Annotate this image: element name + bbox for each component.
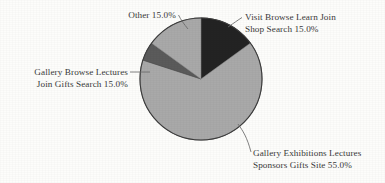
pie-label-gallery-browse-lectures-join-gifts-search: Gallery Browse Lectures Join Gifts Searc… (4, 66, 128, 90)
pie-chart-figure: Visit Browse Learn Join Shop Search 15.0… (0, 0, 385, 183)
pie-label-gallery-exhibitions-lectures-sponsors-gifts-site: Gallery Exhibitions Lectures Sponsors Gi… (253, 147, 383, 171)
pie-label-visit-browse-learn-join-shop-search: Visit Browse Learn Join Shop Search 15.0… (245, 11, 377, 35)
pie-label-other: Other 15.0% (104, 9, 176, 21)
leader-line-slice-1 (228, 18, 242, 28)
leader-line-slice-2 (238, 124, 251, 152)
